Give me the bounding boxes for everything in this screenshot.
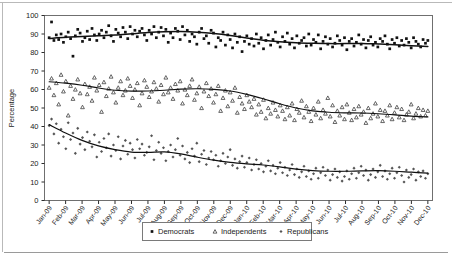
scatter-marker-square — [234, 33, 237, 36]
y-tick-label: 30 — [30, 141, 38, 150]
scatter-marker-square — [200, 27, 203, 30]
scatter-marker-square — [122, 26, 125, 29]
scatter-marker-square — [141, 27, 144, 30]
scatter-marker-square — [155, 36, 158, 39]
scatter-marker-square — [57, 38, 60, 41]
scatter-marker-square — [369, 35, 372, 38]
scatter-marker-square — [407, 41, 410, 44]
scatter-marker-square — [365, 47, 368, 50]
scatter-marker-square — [279, 46, 282, 49]
scatter-marker-square — [179, 38, 182, 41]
scatter-marker-square — [296, 35, 299, 38]
scatter-marker-square — [310, 44, 313, 47]
scatter-marker-square — [210, 29, 213, 32]
scatter-marker-square — [376, 46, 379, 49]
scatter-marker-square — [319, 47, 322, 50]
scatter-marker-square — [203, 37, 206, 40]
scatter-marker-square — [286, 32, 289, 35]
x-tick-label: Jun-09 — [117, 204, 136, 225]
scatter-marker-square — [191, 33, 194, 36]
scatter-marker-square — [136, 35, 139, 38]
party-approval-scatter-chart: 0102030405060708090100 Percentage Jan-09… — [0, 0, 452, 261]
scatter-marker-square — [391, 38, 394, 41]
scatter-marker-square — [426, 39, 429, 42]
scatter-marker-square — [245, 35, 248, 38]
scatter-marker-square — [107, 24, 110, 27]
scatter-marker-square — [100, 29, 103, 32]
scatter-marker-square — [138, 30, 141, 33]
legend-label-republicans: Republicans — [287, 227, 329, 236]
chart-legend: DemocratsIndependentsRepublicans — [143, 223, 329, 241]
scatter-marker-square — [81, 40, 84, 43]
scatter-marker-square — [126, 37, 129, 40]
scatter-marker-square — [324, 35, 327, 38]
scatter-marker-square — [281, 35, 284, 38]
scatter-marker-square — [274, 31, 277, 34]
scatter-marker-square — [267, 34, 270, 37]
scatter-marker-square — [217, 36, 220, 39]
y-axis: 0102030405060708090100 — [26, 11, 45, 205]
y-tick-label: 10 — [30, 178, 38, 187]
x-tick-label: May-09 — [99, 204, 120, 227]
scatter-marker-square — [417, 43, 420, 46]
y-tick-label: 50 — [30, 104, 38, 113]
scatter-marker-square — [134, 29, 137, 32]
scatter-marker-square — [248, 43, 251, 46]
scatter-marker-square — [255, 33, 258, 36]
scatter-marker-square — [293, 47, 296, 50]
scatter-marker-square — [207, 42, 210, 45]
scatter-marker-square — [322, 40, 325, 43]
scatter-marker-square — [348, 40, 351, 43]
scatter-marker-square — [236, 41, 239, 44]
legend-label-independents: Independents — [221, 227, 267, 236]
scatter-marker-square — [336, 35, 339, 38]
scatter-marker-square — [188, 40, 191, 43]
x-tick-label: Mar-09 — [67, 204, 86, 226]
scatter-marker-square — [338, 39, 341, 42]
scatter-marker-square — [105, 31, 108, 34]
scatter-marker-square — [384, 35, 387, 38]
scatter-marker-square — [60, 33, 63, 36]
scatter-marker-square — [215, 46, 218, 49]
scatter-marker-square — [148, 29, 151, 32]
x-tick-label: Jun-10 — [314, 204, 333, 225]
scatter-marker-square — [410, 47, 413, 50]
scatter-marker-square — [331, 46, 334, 49]
scatter-marker-square — [103, 36, 106, 39]
scatter-marker-square — [91, 27, 94, 30]
scatter-marker-square — [160, 26, 163, 29]
y-axis-title: Percentage — [7, 89, 16, 127]
scatter-marker-square — [291, 37, 294, 40]
scatter-marker-square — [353, 45, 356, 48]
scatter-marker-square — [300, 39, 303, 42]
scatter-marker-square — [388, 47, 391, 50]
scatter-marker-square — [305, 45, 308, 48]
scatter-marker-square — [184, 34, 187, 37]
scatter-marker-square — [143, 34, 146, 37]
scatter-marker-square — [181, 25, 184, 28]
scatter-marker-square — [76, 28, 79, 31]
scatter-marker-square — [151, 230, 154, 233]
scatter-marker-square — [129, 25, 132, 28]
scatter-marker-square — [312, 38, 315, 41]
scatter-marker-square — [422, 38, 425, 41]
scatter-marker-square — [415, 40, 418, 43]
y-tick-label: 70 — [30, 67, 38, 76]
y-tick-label: 40 — [30, 122, 38, 131]
scatter-marker-square — [224, 44, 227, 47]
scatter-marker-square — [55, 34, 58, 37]
scatter-marker-square — [269, 44, 272, 47]
scatter-marker-square — [367, 39, 370, 42]
scatter-marker-square — [241, 50, 244, 53]
y-tick-label: 60 — [30, 85, 38, 94]
scatter-marker-square — [153, 25, 156, 28]
scatter-marker-square — [112, 40, 115, 43]
scatter-marker-square — [222, 31, 225, 34]
scatter-marker-square — [260, 36, 263, 39]
scatter-marker-square — [205, 35, 208, 38]
scatter-marker-square — [174, 27, 177, 30]
scatter-marker-square — [400, 39, 403, 42]
legend-label-democrats: Democrats — [158, 227, 195, 236]
scatter-marker-square — [257, 42, 260, 45]
top-divider-rule — [0, 2, 452, 3]
